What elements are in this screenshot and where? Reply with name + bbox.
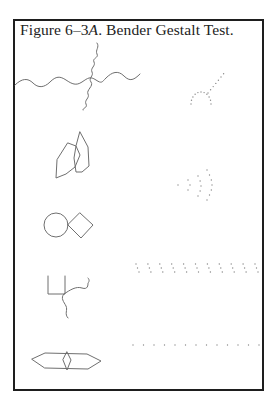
design-dot-row (132, 344, 259, 345)
design-dotted-arcs (177, 169, 212, 200)
bender-designs (0, 0, 273, 405)
design-dotted-arc (190, 73, 224, 105)
design-square-curve (48, 276, 89, 318)
design-circle-diamond (44, 213, 93, 238)
design-wavy-cross (15, 43, 140, 110)
design-overlapping-hexagons (56, 132, 89, 178)
design-dot-columns (135, 263, 258, 272)
design-hexagon-diamond (32, 352, 101, 370)
